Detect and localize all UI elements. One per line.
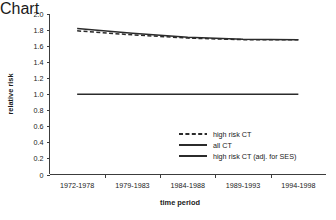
series-lines xyxy=(77,28,298,94)
x-tick-label: 1972-1978 xyxy=(60,181,94,190)
x-axis-title: time period xyxy=(160,198,200,207)
y-tick-label: 0.2 xyxy=(34,154,44,163)
x-tick-label: 1994-1998 xyxy=(281,181,315,190)
x-axis: 1972-19781979-19831984-19881989-19931994… xyxy=(50,175,327,208)
x-tick-label: 1984-1988 xyxy=(171,181,205,190)
y-tick-label: 1.0 xyxy=(34,90,44,99)
y-axis-title: relative risk xyxy=(6,73,15,115)
chart-legend: high risk CTall CThigh risk CT (adj. for… xyxy=(179,130,296,161)
y-tick-label: 2.0 xyxy=(34,10,44,19)
x-tick-label: 1979-1983 xyxy=(115,181,149,190)
series-line-1 xyxy=(77,28,298,39)
y-tick-labels: 00.20.40.60.81.01.21.41.61.82.0 xyxy=(34,10,44,180)
y-tick-label: 0.4 xyxy=(34,138,44,147)
y-tick-label: 0 xyxy=(40,171,44,180)
y-tick-label: 1.6 xyxy=(34,42,44,51)
y-tick-label: 1.4 xyxy=(34,58,44,67)
x-tick-labels: 1972-19781979-19831984-19881989-19931994… xyxy=(60,181,316,190)
relative-risk-line-chart: 00.20.40.60.81.01.21.41.61.82.0 relative… xyxy=(0,0,336,220)
y-tick-label: 1.8 xyxy=(34,26,44,35)
legend-label-1: all CT xyxy=(213,141,232,150)
y-tick-label: 0.8 xyxy=(34,106,44,115)
legend-label-0: high risk CT xyxy=(213,130,252,139)
y-tick-label: 0.6 xyxy=(34,122,44,131)
y-tick-label: 1.2 xyxy=(34,74,44,83)
series-line-0 xyxy=(77,31,298,40)
legend-label-2: high risk CT (adj. for SES) xyxy=(213,152,296,161)
y-axis: 00.20.40.60.81.01.21.41.61.82.0 relative… xyxy=(6,10,50,180)
x-tick-label: 1989-1993 xyxy=(226,181,260,190)
chart-canvas: 00.20.40.60.81.01.21.41.61.82.0 relative… xyxy=(0,0,336,220)
